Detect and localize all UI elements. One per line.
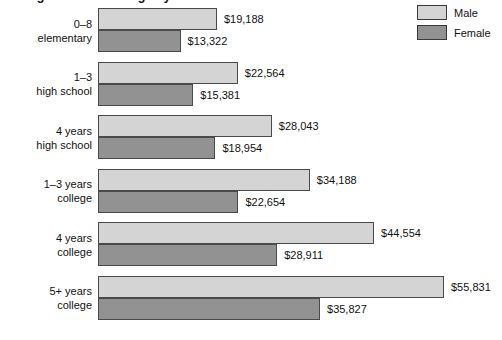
bar-female (98, 298, 320, 320)
bar-male (98, 169, 310, 191)
category-label-line1: 0–8 (74, 17, 92, 31)
bar-male (98, 115, 272, 137)
category-label-line1: 1–3 (74, 70, 92, 84)
bar-value-label-male: $44,554 (374, 222, 421, 244)
earnings-bar-chart: Average annual earnings by educational a… (0, 0, 502, 340)
category-label-line2: college (57, 245, 92, 259)
bar-value-label-female: $13,322 (181, 30, 228, 52)
bar-female (98, 84, 193, 106)
bar-male (98, 8, 217, 30)
category-label-line1: 1–3 years (44, 177, 92, 191)
bar-value-label-male: $28,043 (272, 115, 319, 137)
category-label: 1–3 yearscollege (0, 169, 92, 214)
category-label-line2: college (57, 298, 92, 312)
bar-value-label-female: $15,381 (193, 84, 240, 106)
bar-value-label-male: $22,564 (238, 62, 285, 84)
category-label: 5+ yearscollege (0, 276, 92, 321)
category-label-line1: 5+ years (50, 284, 93, 298)
category-label-line1: 4 years (56, 231, 92, 245)
category-label: 0–8elementary (0, 8, 92, 53)
chart-group: 1–3high school$22,564$15,381 (0, 62, 502, 107)
bar-female (98, 191, 238, 213)
bar-male (98, 222, 374, 244)
bar-female (98, 244, 277, 266)
bar-female (98, 137, 215, 159)
bar-value-label-female: $18,954 (215, 137, 262, 159)
category-label: 4 yearshigh school (0, 115, 92, 160)
category-label-line2: high school (36, 84, 92, 98)
category-label: 4 yearscollege (0, 222, 92, 267)
bar-value-label-male: $34,188 (310, 169, 357, 191)
chart-group: 5+ yearscollege$55,831$35,827 (0, 276, 502, 321)
plot-area: 0–8elementary$19,188$13,3221–3high schoo… (0, 0, 502, 340)
category-label-line1: 4 years (56, 124, 92, 138)
chart-group: 4 yearscollege$44,554$28,911 (0, 222, 502, 267)
bar-value-label-female: $28,911 (277, 244, 323, 266)
bar-value-label-female: $35,827 (320, 298, 367, 320)
bar-male (98, 62, 238, 84)
chart-group: 1–3 yearscollege$34,188$22,654 (0, 169, 502, 214)
chart-group: 4 yearshigh school$28,043$18,954 (0, 115, 502, 160)
category-label: 1–3high school (0, 62, 92, 107)
category-label-line2: elementary (38, 31, 92, 45)
chart-group: 0–8elementary$19,188$13,322 (0, 8, 502, 53)
category-label-line2: high school (36, 138, 92, 152)
bar-value-label-male: $19,188 (217, 8, 264, 30)
bar-value-label-male: $55,831 (444, 276, 491, 298)
bar-female (98, 30, 181, 52)
category-label-line2: college (57, 191, 92, 205)
bar-male (98, 276, 444, 298)
bar-value-label-female: $22,654 (238, 191, 285, 213)
